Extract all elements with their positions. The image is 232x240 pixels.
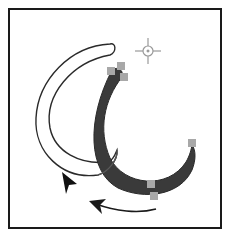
anchor-handle[interactable] bbox=[117, 62, 125, 70]
anchor-handle[interactable] bbox=[188, 139, 196, 147]
anchor-handle[interactable] bbox=[150, 192, 158, 200]
anchor-handle[interactable] bbox=[147, 180, 155, 188]
anchor-handle[interactable] bbox=[120, 73, 128, 81]
diagram-canvas bbox=[0, 0, 232, 240]
frame-border bbox=[9, 9, 221, 228]
diagram-svg bbox=[0, 0, 232, 240]
anchor-handle[interactable] bbox=[107, 67, 115, 75]
